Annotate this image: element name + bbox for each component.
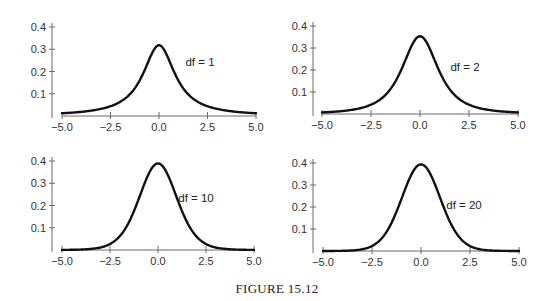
panel-df-1: 0.10.20.30.4−5.0−2.50.02.55.0df = 1	[31, 21, 264, 133]
x-tick-label: −2.5	[361, 256, 383, 268]
density-curve-line	[62, 163, 254, 249]
x-tick-label: 5.0	[510, 119, 525, 131]
density-curve-line	[62, 45, 256, 113]
df-annotation: df = 1	[185, 56, 214, 68]
x-tick-label: 0.0	[150, 255, 165, 267]
panel-df-10: 0.10.20.30.4−5.0−2.50.02.55.0df = 10	[31, 155, 262, 267]
x-tick-label: 5.0	[248, 121, 263, 133]
y-tick-label: 0.1	[31, 222, 46, 234]
figure-15-12: 0.10.20.30.4−5.0−2.50.02.55.0df = 1 0.10…	[0, 0, 554, 301]
x-tick-label: −2.5	[99, 255, 121, 267]
y-tick-label: 0.1	[292, 86, 307, 98]
y-tick-label: 0.4	[31, 21, 46, 33]
df-annotation: df = 10	[178, 192, 214, 204]
x-tick-label: 2.5	[200, 121, 215, 133]
y-tick-label: 0.3	[292, 179, 307, 191]
x-tick-label: 5.0	[511, 256, 526, 268]
y-tick-label: 0.4	[292, 157, 307, 169]
y-tick-label: 0.1	[31, 88, 46, 100]
x-tick-label: 0.0	[151, 121, 166, 133]
y-tick-label: 0.2	[31, 200, 46, 212]
y-tick-label: 0.4	[292, 20, 307, 32]
x-tick-label: 0.0	[412, 119, 427, 131]
x-tick-label: −5.0	[51, 121, 73, 133]
y-tick-label: 0.4	[31, 155, 46, 167]
y-tick-label: 0.2	[292, 64, 307, 76]
y-tick-label: 0.3	[31, 43, 46, 55]
y-tick-label: 0.3	[31, 177, 46, 189]
x-tick-label: 2.5	[462, 256, 477, 268]
density-curve-line	[322, 36, 518, 112]
x-tick-label: −5.0	[311, 119, 333, 131]
x-tick-label: 5.0	[246, 255, 261, 267]
x-tick-label: −5.0	[312, 256, 334, 268]
x-tick-label: −2.5	[100, 121, 122, 133]
y-tick-label: 0.2	[292, 201, 307, 213]
figure-caption: FIGURE 15.12	[235, 281, 318, 296]
x-tick-label: −5.0	[51, 255, 73, 267]
panel-df-20: 0.10.20.30.4−5.0−2.50.02.55.0df = 20	[292, 157, 527, 268]
df-annotation: df = 2	[450, 61, 479, 73]
y-tick-label: 0.3	[292, 42, 307, 54]
y-tick-label: 0.2	[31, 66, 46, 78]
density-curve-line	[323, 164, 519, 251]
df-annotation: df = 20	[446, 199, 482, 211]
y-tick-label: 0.1	[292, 223, 307, 235]
x-tick-label: 2.5	[461, 119, 476, 131]
x-tick-label: 0.0	[413, 256, 428, 268]
x-tick-label: −2.5	[360, 119, 382, 131]
x-tick-label: 2.5	[198, 255, 213, 267]
panel-df-2: 0.10.20.30.4−5.0−2.50.02.55.0df = 2	[292, 20, 526, 131]
